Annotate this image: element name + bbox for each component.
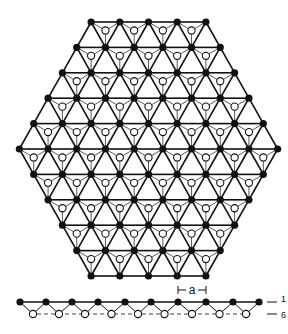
lattice-constant-marker: a [178, 283, 206, 297]
lattice-diagram: a 1 6 [0, 0, 288, 334]
lattice-side-view [16, 298, 262, 317]
label-one: 1 [281, 294, 286, 304]
hexagonal-lattice-top-view [16, 18, 282, 279]
lattice-constant-label: a [189, 283, 196, 297]
layer-height-labels: 1 6 [267, 294, 286, 320]
label-six: 6 [281, 310, 286, 320]
